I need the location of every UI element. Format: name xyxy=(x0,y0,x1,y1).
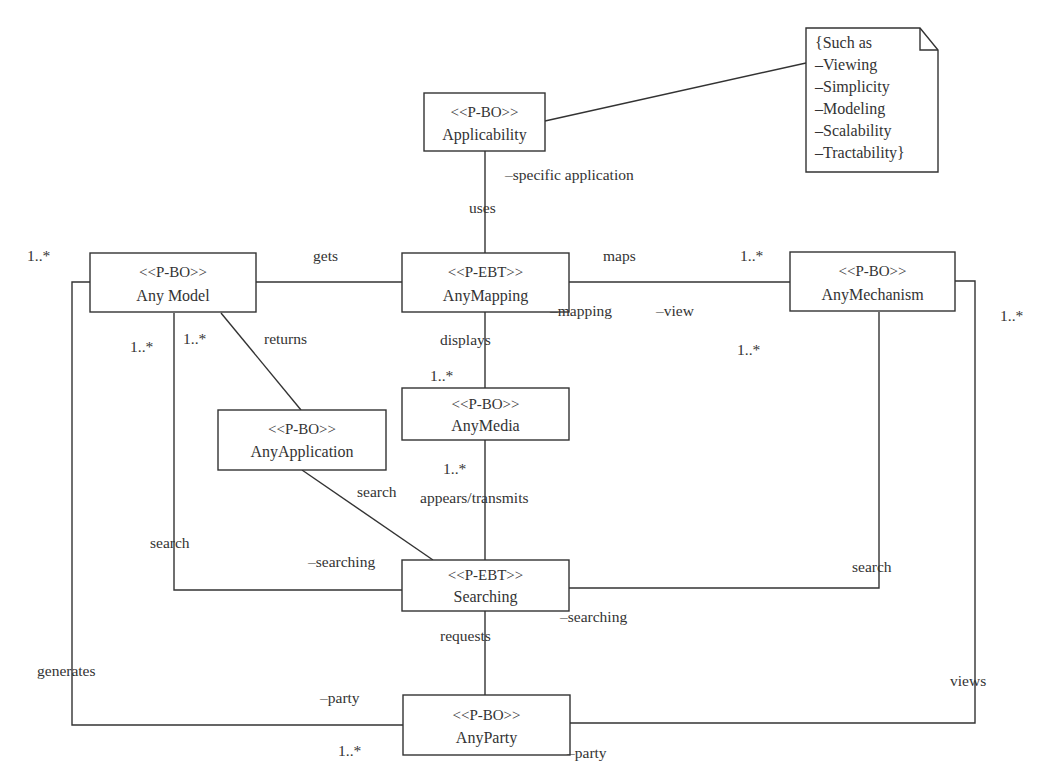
note-line: –Tractability} xyxy=(814,144,905,162)
association-label: gets xyxy=(313,247,338,264)
class-name: AnyMapping xyxy=(443,287,528,305)
multiplicity: 1..* xyxy=(443,460,467,477)
association-label: search xyxy=(852,558,892,575)
class-name: Any Model xyxy=(136,287,210,305)
class-applicability: <<P-BO>> Applicability xyxy=(424,93,545,151)
class-name: Applicability xyxy=(442,126,526,144)
association-label: requests xyxy=(440,627,491,644)
multiplicity: 1..* xyxy=(737,341,761,358)
generates-association xyxy=(72,282,403,725)
multiplicity: 1..* xyxy=(338,742,362,759)
multiplicity: 1..* xyxy=(430,367,454,384)
multiplicity: 1..* xyxy=(130,338,154,355)
class-name: AnyParty xyxy=(456,729,517,747)
role-label: –party xyxy=(319,689,360,706)
role-label: –searching xyxy=(559,608,627,625)
multiplicity: 1..* xyxy=(183,330,207,347)
class-name: AnyApplication xyxy=(250,443,353,461)
class-any-party: <<P-BO>> AnyParty xyxy=(403,695,570,755)
class-any-media: <<P-BO>> AnyMedia xyxy=(402,388,569,440)
class-stereotype: <<P-BO>> xyxy=(268,421,336,437)
role-label: –specific application xyxy=(504,166,634,183)
class-stereotype: <<P-BO>> xyxy=(451,396,519,412)
class-searching: <<P-EBT>> Searching xyxy=(402,560,569,611)
association-label: search xyxy=(150,534,190,551)
views-association xyxy=(570,281,975,723)
class-diagram: {Such as –Viewing –Simplicity –Modeling … xyxy=(0,0,1040,783)
association-label: generates xyxy=(37,662,96,679)
role-label: –party xyxy=(566,744,607,761)
class-stereotype: <<P-BO>> xyxy=(452,707,520,723)
search-mechanism-association xyxy=(569,312,879,588)
association-label: appears/transmits xyxy=(420,489,528,506)
role-label: –mapping xyxy=(549,302,612,319)
class-stereotype: <<P-EBT>> xyxy=(448,567,524,583)
multiplicity: 1..* xyxy=(740,247,764,264)
class-stereotype: <<P-BO>> xyxy=(139,264,207,280)
class-any-model: <<P-BO>> Any Model xyxy=(90,253,256,312)
multiplicity: 1..* xyxy=(1000,307,1024,324)
class-stereotype: <<P-EBT>> xyxy=(448,264,524,280)
class-any-mechanism: <<P-BO>> AnyMechanism xyxy=(790,252,955,311)
class-name: Searching xyxy=(454,588,518,606)
class-name: AnyMedia xyxy=(451,417,519,435)
role-label: –searching xyxy=(307,553,375,570)
association-label: returns xyxy=(264,330,307,347)
note-line: –Viewing xyxy=(814,56,877,74)
multiplicity: 1..* xyxy=(27,247,51,264)
association-label: search xyxy=(357,483,397,500)
association-label: views xyxy=(950,672,986,689)
class-stereotype: <<P-BO>> xyxy=(450,104,518,120)
note-line: –Simplicity xyxy=(814,78,890,96)
role-label: –view xyxy=(655,302,695,319)
note-line: –Scalability xyxy=(814,122,891,140)
association-label: displays xyxy=(440,331,491,348)
association-label: maps xyxy=(603,247,636,264)
class-name: AnyMechanism xyxy=(821,286,924,304)
note-line: {Such as xyxy=(815,34,872,51)
class-any-mapping: <<P-EBT>> AnyMapping xyxy=(402,253,569,312)
class-stereotype: <<P-BO>> xyxy=(838,263,906,279)
constraint-note: {Such as –Viewing –Simplicity –Modeling … xyxy=(806,28,938,172)
applicability-note-link xyxy=(545,63,806,121)
note-line: –Modeling xyxy=(814,100,885,118)
returns-association xyxy=(221,313,301,410)
class-any-application: <<P-BO>> AnyApplication xyxy=(218,410,386,470)
association-label: uses xyxy=(469,199,496,216)
